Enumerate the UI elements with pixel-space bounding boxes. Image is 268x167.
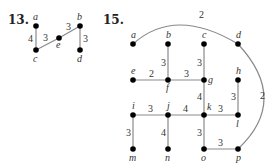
problem-number-13: 13. bbox=[8, 13, 29, 27]
vertex-l bbox=[235, 112, 241, 118]
vertex-b bbox=[165, 41, 171, 47]
graph-15: 15. 2 2 3 3 2 3 4 3 3 4 3 3 4 3 3 bbox=[103, 9, 265, 163]
vertex-label-o: o bbox=[201, 152, 206, 163]
vertex-label-m: m bbox=[129, 152, 136, 163]
vertex-label-j: j bbox=[165, 100, 170, 111]
weight-k-o: 3 bbox=[197, 127, 202, 138]
graph-diagrams: 13. 4 3 3 3 a b c d e 15. bbox=[0, 0, 268, 167]
vertex-j bbox=[165, 112, 171, 118]
vertex-label-b: b bbox=[77, 11, 82, 22]
weight-b-d: 3 bbox=[83, 33, 88, 44]
vertex-g bbox=[201, 77, 207, 83]
weight-e-b: 3 bbox=[66, 21, 71, 32]
edge-a-d bbox=[133, 25, 238, 44]
vertex-label-h: h bbox=[236, 65, 241, 76]
vertex-label-c: c bbox=[202, 29, 207, 40]
weight-j-k: 4 bbox=[183, 103, 188, 114]
weight-e-f: 2 bbox=[149, 68, 154, 79]
vertex-a bbox=[130, 41, 136, 47]
weight-f-g: 3 bbox=[184, 68, 189, 79]
vertex-label-i: i bbox=[132, 100, 135, 111]
vertex-c bbox=[201, 41, 207, 47]
vertex-label-n: n bbox=[165, 152, 170, 163]
weight-a-d: 2 bbox=[199, 9, 204, 20]
weight-j-n: 4 bbox=[161, 127, 166, 138]
weight-i-j: 3 bbox=[148, 103, 153, 114]
vertex-label-p: p bbox=[235, 152, 241, 163]
vertex-e bbox=[130, 77, 136, 83]
vertex-label-c: c bbox=[33, 53, 38, 64]
vertex-label-e: e bbox=[56, 39, 61, 50]
vertex-label-a: a bbox=[131, 29, 136, 40]
weight-o-p: 3 bbox=[218, 137, 223, 148]
weight-c-e: 3 bbox=[43, 32, 48, 43]
vertex-label-f: f bbox=[166, 82, 170, 93]
weight-i-m: 3 bbox=[126, 127, 131, 138]
vertex-o bbox=[201, 146, 207, 152]
vertex-h bbox=[235, 77, 241, 83]
vertex-c bbox=[33, 47, 39, 53]
vertex-m bbox=[130, 146, 136, 152]
weight-g-k: 4 bbox=[197, 91, 202, 102]
weight-b-f: 3 bbox=[161, 57, 166, 68]
vertex-i bbox=[130, 112, 136, 118]
vertex-p bbox=[235, 146, 241, 152]
vertex-label-d: d bbox=[77, 53, 83, 64]
weight-c-g: 3 bbox=[197, 57, 202, 68]
weight-k-l: 3 bbox=[218, 103, 223, 114]
vertex-n bbox=[165, 146, 171, 152]
vertex-label-d: d bbox=[236, 29, 242, 40]
vertex-label-a: a bbox=[33, 11, 38, 22]
vertex-label-l: l bbox=[236, 118, 239, 129]
vertex-label-b: b bbox=[166, 29, 171, 40]
vertex-d bbox=[235, 41, 241, 47]
vertex-d bbox=[77, 47, 83, 53]
vertex-label-k: k bbox=[207, 101, 212, 112]
graph-13: 13. 4 3 3 3 a b c d e bbox=[8, 11, 88, 64]
vertex-a bbox=[33, 23, 39, 29]
weight-h-l: 3 bbox=[231, 91, 236, 102]
weight-a-c: 4 bbox=[28, 33, 33, 44]
vertex-label-e: e bbox=[131, 65, 136, 76]
vertex-b bbox=[77, 23, 83, 29]
vertex-label-g: g bbox=[208, 74, 213, 85]
problem-number-15: 15. bbox=[103, 13, 124, 27]
vertex-k bbox=[201, 112, 207, 118]
weight-d-p: 2 bbox=[260, 90, 265, 101]
